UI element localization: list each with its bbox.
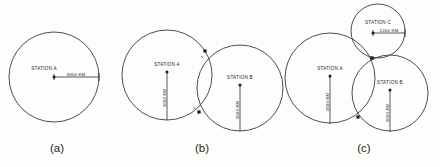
radius-b-label: 3600 KM — [385, 103, 390, 122]
intersection-ab-lower-marker — [356, 115, 359, 118]
station-b-dot — [389, 89, 392, 92]
station-coverage-diagram: 3600 KMSTATION A(a)3600 KM3600 KMSTATION… — [0, 0, 440, 167]
radius-a-label: 3600 KM — [67, 72, 86, 77]
radius-c-label: 1200 KM — [380, 28, 399, 33]
station-a-dot — [53, 76, 56, 79]
radius-b-label: 3600 KM — [235, 100, 240, 119]
station-b-label: STATION B — [377, 80, 403, 85]
intersection-upper-query-label: ? — [201, 55, 204, 60]
station-b-label: STATION B — [227, 75, 253, 80]
panel-b: 3600 KM3600 KMSTATION ASTATION B??(b) — [122, 30, 283, 154]
panel-caption: (c) — [357, 142, 371, 154]
radius-a-label: 3600 KM — [162, 88, 167, 107]
panel-caption: (b) — [195, 142, 209, 154]
intersection-upper-marker — [203, 49, 206, 52]
station-c-dot — [372, 32, 375, 35]
station-b-dot — [239, 84, 242, 87]
intersection-abc-marker — [370, 56, 373, 59]
station-a-dot — [166, 71, 169, 74]
station-a-label: STATION A — [31, 66, 57, 71]
station-a-label: STATION A — [317, 66, 343, 71]
panel-c: 3600 KM3600 KM1200 KMSTATION ASTATION BS… — [285, 4, 428, 154]
panel-a: 3600 KMSTATION A(a) — [9, 32, 99, 154]
panel-caption: (a) — [50, 142, 64, 154]
radius-a-label: 3600 KM — [325, 92, 330, 111]
intersection-lower-marker — [197, 110, 200, 113]
station-a-label: STATION A — [154, 62, 180, 67]
station-a-dot — [329, 75, 332, 78]
figure-root: 3600 KMSTATION A(a)3600 KM3600 KMSTATION… — [0, 0, 440, 167]
station-c-label: STATION C — [365, 20, 392, 25]
